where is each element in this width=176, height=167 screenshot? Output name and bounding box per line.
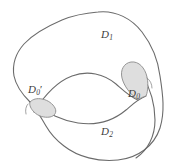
domain-diagram-figure: D1 D2 D0 D0′ xyxy=(0,0,176,167)
region-label-d0-base: D xyxy=(128,87,136,99)
region-label-d1-base: D xyxy=(101,28,109,40)
region-label-d2: D2 xyxy=(101,126,113,137)
region-label-d0-prime-mark: ′ xyxy=(39,83,41,95)
domain-diagram-svg xyxy=(0,0,176,167)
region-label-d0-prime-base: D xyxy=(28,83,36,95)
region-label-d2-sub: 2 xyxy=(109,130,113,139)
region-label-d0-prime: D0′ xyxy=(28,84,42,95)
region-label-d1-sub: 1 xyxy=(109,33,113,42)
region-label-d1: D1 xyxy=(101,29,113,40)
shaded-region-d0prime xyxy=(30,99,56,118)
region-label-d0: D0 xyxy=(128,88,140,99)
lens-left-tip-stroke xyxy=(26,104,28,114)
region-label-d0-sub: 0 xyxy=(136,92,140,101)
region-label-d2-base: D xyxy=(101,125,109,137)
